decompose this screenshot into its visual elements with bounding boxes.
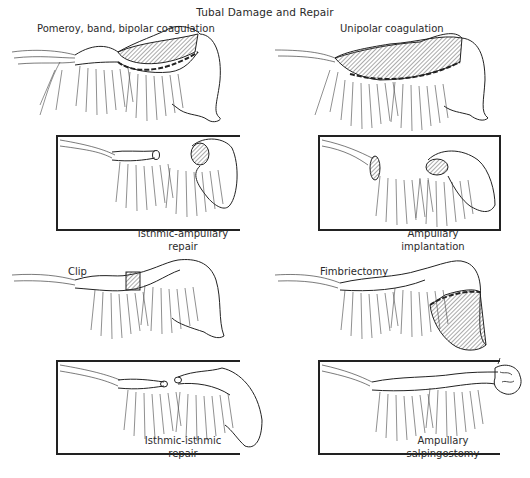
tube-fimbriectomy-damage (275, 261, 486, 350)
tube-unipolar-damage (275, 34, 488, 131)
tubal-illustrations (0, 0, 530, 478)
tube-clip-damage (12, 260, 224, 339)
tube-isthmic-ampullary-repair (60, 139, 237, 217)
tube-ampullary-implantation (322, 140, 495, 227)
tube-isthmic-isthmic-repair (60, 365, 262, 447)
tube-ampullary-salpingostomy (322, 358, 521, 441)
tube-pomeroy-damage (12, 26, 220, 121)
